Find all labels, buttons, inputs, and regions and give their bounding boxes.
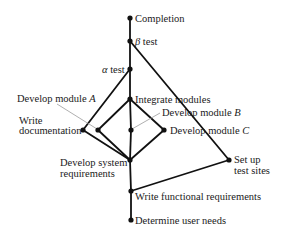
label-set-up-test-sites-line1: Set up [234, 154, 261, 165]
label-determine-user-needs: Determine user needs [135, 215, 226, 226]
edge-writedoc-sysreq [83, 130, 130, 160]
edge-sysreq-funcreq [130, 160, 131, 191]
module-c-text: Develop module [170, 125, 242, 136]
module-c-var: C [242, 125, 250, 136]
labels: Completion β test α test Integrate modul… [17, 13, 270, 226]
edge-setup-funcreq [131, 160, 229, 191]
node-set-up-test-sites [226, 157, 231, 162]
node-determine-user-needs [128, 217, 133, 222]
label-alpha-test: α test [102, 64, 125, 75]
label-develop-module-a: Develop module A [17, 93, 96, 104]
leader-module-b [132, 113, 160, 129]
alpha-text: test [108, 64, 125, 75]
label-integrate-modules: Integrate modules [135, 94, 211, 105]
label-develop-system-requirements-line1: Develop system [60, 157, 127, 168]
module-a-var: A [88, 93, 96, 104]
label-set-up-test-sites-line2: test sites [234, 165, 270, 176]
edge-integrate-moduleB [130, 99, 131, 130]
module-a-text: Develop module [17, 93, 89, 104]
module-b-text: Develop module [162, 107, 234, 118]
node-alpha-test [127, 66, 132, 71]
node-develop-module-b [128, 127, 133, 132]
label-develop-system-requirements-line2: requirements [60, 168, 115, 179]
label-write-documentation-line2: documentation [19, 125, 82, 136]
node-integrate-modules [127, 96, 132, 101]
node-develop-system-requirements [127, 157, 132, 162]
label-develop-module-b: Develop module B [162, 107, 241, 118]
node-develop-module-c [161, 127, 166, 132]
edge-moduleA-sysreq [98, 130, 130, 160]
beta-text: test [140, 36, 157, 47]
module-b-var: B [234, 107, 241, 118]
node-beta-test [127, 38, 132, 43]
label-completion: Completion [135, 13, 185, 24]
label-beta-test: β test [134, 36, 158, 47]
node-develop-module-a [95, 127, 100, 132]
activity-network-diagram: Completion β test α test Integrate modul… [0, 0, 283, 240]
node-write-functional-requirements [128, 188, 133, 193]
edges [83, 18, 229, 220]
node-completion [127, 15, 132, 20]
label-write-functional-requirements: Write functional requirements [135, 191, 261, 202]
edge-moduleC-sysreq [130, 130, 164, 160]
label-develop-module-c: Develop module C [170, 125, 250, 136]
edge-moduleB-sysreq [130, 130, 131, 160]
